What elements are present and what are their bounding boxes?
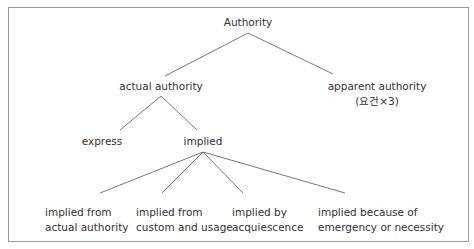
node-line1: implied because of <box>318 205 444 220</box>
node-implied-from-actual-authority: implied from actual authority <box>45 205 129 235</box>
edge-implied-custom <box>162 152 203 193</box>
edge-authority-actual <box>165 33 248 76</box>
node-implied-by-acquiescence: implied by acquiescence <box>232 205 304 235</box>
node-express: express <box>82 134 123 149</box>
edge-actual-implied <box>161 96 197 130</box>
node-apparent-authority-label: apparent authority <box>328 79 427 94</box>
node-implied-from-custom-and-usage: implied from custom and usage <box>136 205 233 235</box>
node-implied: implied <box>184 134 223 149</box>
node-line2: acquiescence <box>232 220 304 235</box>
edge-implied-emergency <box>203 152 345 193</box>
edge-actual-express <box>120 96 161 130</box>
edge-authority-apparent <box>248 33 333 74</box>
node-line1: implied from <box>45 205 129 220</box>
node-authority: Authority <box>224 15 273 30</box>
node-line1: implied from <box>136 205 233 220</box>
node-line1: implied by <box>232 205 304 220</box>
edge-implied-actual <box>100 152 203 193</box>
node-apparent-authority-sublabel: (요건×3) <box>328 94 427 109</box>
node-apparent-authority: apparent authority (요건×3) <box>328 79 427 109</box>
node-actual-authority: actual authority <box>119 79 203 94</box>
node-line2: actual authority <box>45 220 129 235</box>
node-implied-because-of-emergency: implied because of emergency or necessit… <box>318 205 444 235</box>
node-line2: emergency or necessity <box>318 220 444 235</box>
node-line2: custom and usage <box>136 220 233 235</box>
